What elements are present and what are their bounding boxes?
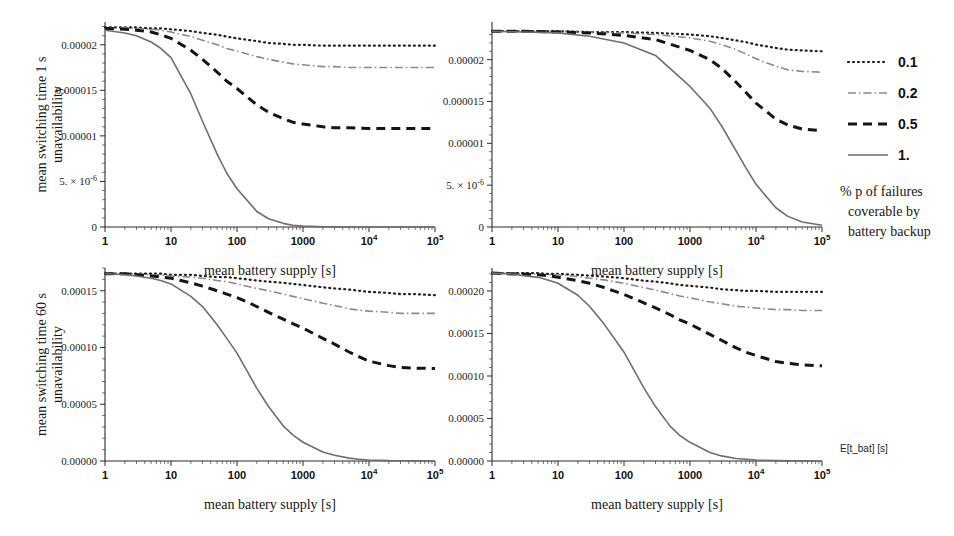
y-tick-label: 0.00001 xyxy=(448,137,484,149)
panel-top-left: 05. × 10-60.000010.0000150.0000211010010… xyxy=(34,22,444,278)
legend: 0.10.20.51.% p of failurescoverable byba… xyxy=(840,54,931,239)
y-tick-label: 0.00020 xyxy=(448,285,484,297)
x-tick-label: 105 xyxy=(814,233,831,247)
x-tick-label: 10 xyxy=(165,469,177,481)
y-tick-label: 0.00005 xyxy=(61,398,97,410)
y-tick-label: 0.00002 xyxy=(448,54,484,66)
legend-caption-line: % p of failures xyxy=(840,184,923,199)
x-tick-label: 1 xyxy=(102,235,108,247)
x-tick-label: 104 xyxy=(361,467,378,481)
legend-label-1: 1. xyxy=(898,147,910,163)
x-axis-title: mean battery supply [s] xyxy=(591,263,723,278)
legend-caption-line: coverable by xyxy=(848,204,920,219)
y-tick-label: 0.00000 xyxy=(448,455,484,467)
x-tick-label: 1 xyxy=(102,469,108,481)
y-tick-label: 0 xyxy=(92,221,98,233)
y-tick-label: 0.00000 xyxy=(61,455,97,467)
x-tick-label: 105 xyxy=(814,467,831,481)
x-tick-label: 105 xyxy=(427,233,444,247)
curve-p-02 xyxy=(492,31,822,72)
y-tick-label: 0.00010 xyxy=(448,370,484,382)
x-axis-title: mean battery supply [s] xyxy=(204,263,336,278)
panel-bottom-left: 0.000000.000050.000100.00015110100100010… xyxy=(34,268,444,512)
panel-bottom-right: 0.000000.000050.000100.000150.0002011010… xyxy=(448,268,831,512)
y-tick-label: 0.00015 xyxy=(448,327,484,339)
figure-root: 05. × 10-60.000010.0000150.0000211010010… xyxy=(0,0,954,536)
legend-caption-line: battery backup xyxy=(848,224,931,239)
y-tick-label: 0.00005 xyxy=(448,412,484,424)
y-tick-label: 0.00010 xyxy=(61,341,97,353)
legend-label-02: 0.2 xyxy=(898,85,918,101)
x-tick-label: 10 xyxy=(165,235,177,247)
x-tick-label: 100 xyxy=(228,235,246,247)
y-axis-title-line: unavailability xyxy=(50,86,65,163)
x-tick-label: 1000 xyxy=(678,235,702,247)
x-tick-label: 1 xyxy=(489,235,495,247)
x-tick-label: 104 xyxy=(361,233,378,247)
x-tick-label: 10 xyxy=(552,469,564,481)
x-tick-label: 100 xyxy=(228,469,246,481)
y-tick-label: 0.00001 xyxy=(61,130,97,142)
multi-panel-chart: 05. × 10-60.000010.0000150.0000211010010… xyxy=(0,0,954,536)
x-tick-label: 100 xyxy=(615,235,633,247)
y-tick-label: 5. × 10-6 xyxy=(59,174,97,187)
y-axis-title-line: mean switching time 1 s xyxy=(34,56,49,192)
y-tick-label: 0.000015 xyxy=(443,95,485,107)
x-tick-label: 1000 xyxy=(291,235,315,247)
curve-p-1 xyxy=(492,273,822,461)
curve-p-1 xyxy=(105,274,435,461)
curve-p-05 xyxy=(105,274,435,369)
x-tick-label: 1000 xyxy=(291,469,315,481)
y-tick-label: 0.00002 xyxy=(61,39,97,51)
legend-label-05: 0.5 xyxy=(898,116,918,132)
curve-p-05 xyxy=(492,273,822,366)
x-tick-label: 104 xyxy=(748,467,765,481)
x-tick-label: 104 xyxy=(748,233,765,247)
x-tick-label: 1000 xyxy=(678,469,702,481)
y-axis-title-line: mean switching time 60 s xyxy=(34,293,49,436)
y-axis-title-line: unavailability xyxy=(50,326,65,403)
y-tick-label: 5. × 10-6 xyxy=(446,178,484,191)
x-tick-label: 100 xyxy=(615,469,633,481)
panel-top-right: 05. × 10-60.000010.0000150.0000211010010… xyxy=(443,22,831,278)
corner-axis-label: E[t_bat] [s] xyxy=(840,443,888,454)
y-tick-label: 0 xyxy=(479,221,485,233)
legend-label-01: 0.1 xyxy=(898,54,918,70)
x-tick-label: 1 xyxy=(489,469,495,481)
curve-p-05 xyxy=(492,31,822,131)
x-axis-title: mean battery supply [s] xyxy=(204,497,336,512)
x-axis-title: mean battery supply [s] xyxy=(591,497,723,512)
curve-p-1 xyxy=(105,30,435,227)
y-tick-label: 0.00015 xyxy=(61,285,97,297)
x-tick-label: 10 xyxy=(552,235,564,247)
curve-p-1 xyxy=(492,31,822,225)
x-tick-label: 105 xyxy=(427,467,444,481)
